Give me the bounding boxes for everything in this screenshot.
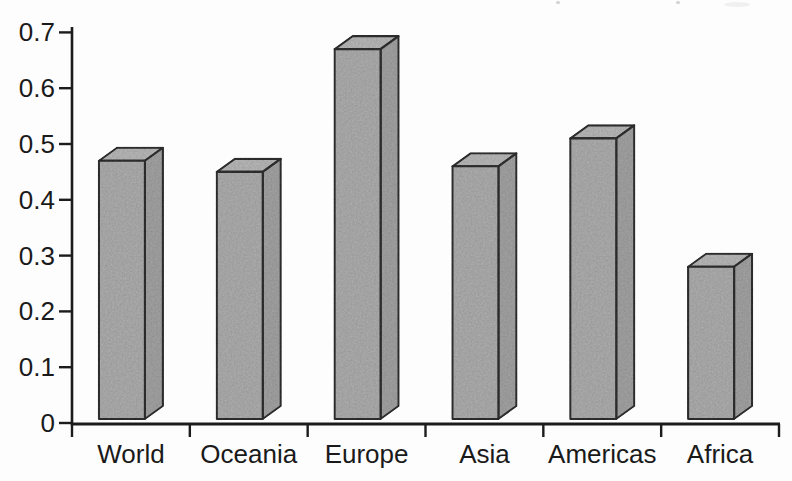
y-tick-label: 0.6 <box>19 73 55 103</box>
y-tick-label: 0.7 <box>19 17 55 47</box>
bar-front-face <box>217 172 263 419</box>
bar-oceania <box>217 159 281 419</box>
x-category-label: Europe <box>325 439 409 469</box>
bar-africa <box>688 254 752 419</box>
y-tick-label: 0.5 <box>19 129 55 159</box>
bar-americas <box>570 125 634 419</box>
scanned-chart-page: 00.10.20.30.40.50.60.7 WorldOceaniaEurop… <box>0 0 792 481</box>
bar-asia <box>452 153 516 419</box>
scan-artifact <box>724 2 750 7</box>
y-tick-label: 0 <box>41 408 55 438</box>
scan-artifact <box>676 1 680 4</box>
y-tick-label: 0.2 <box>19 296 55 326</box>
bar-side-face <box>263 159 281 419</box>
x-category-label: Oceania <box>200 439 297 469</box>
bar-front-face <box>452 166 498 419</box>
x-category-label: World <box>97 439 164 469</box>
3d-bar-chart: 00.10.20.30.40.50.60.7 WorldOceaniaEurop… <box>0 0 792 481</box>
y-tick-label: 0.4 <box>19 185 55 215</box>
bar-world <box>99 148 163 419</box>
axes <box>59 27 780 437</box>
bar-series <box>99 36 752 419</box>
x-category-label: Asia <box>459 439 510 469</box>
bar-side-face <box>498 153 516 419</box>
bar-europe <box>335 36 399 419</box>
x-category-label: Africa <box>687 439 754 469</box>
bar-side-face <box>734 254 752 419</box>
y-tick-label: 0.1 <box>19 352 55 382</box>
bar-side-face <box>616 125 634 419</box>
bar-front-face <box>688 267 734 419</box>
bar-side-face <box>145 148 163 419</box>
x-category-label: Americas <box>548 439 656 469</box>
bar-front-face <box>99 161 145 419</box>
bar-front-face <box>335 49 381 419</box>
y-tick-label: 0.3 <box>19 241 55 271</box>
y-axis-tick-labels: 00.10.20.30.40.50.60.7 <box>19 17 55 438</box>
bar-side-face <box>381 36 399 419</box>
scan-artifact <box>556 1 560 4</box>
x-axis-category-labels: WorldOceaniaEuropeAsiaAmericasAfrica <box>97 439 754 469</box>
bar-front-face <box>570 138 616 419</box>
